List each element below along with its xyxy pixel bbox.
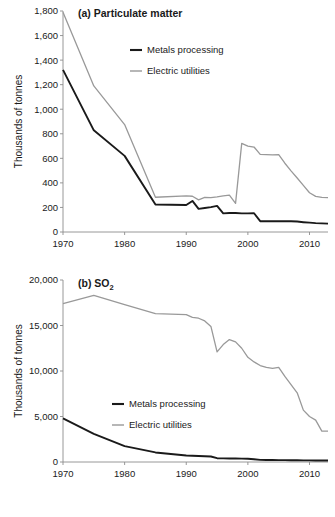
y-tick-label-a-2: 400 (42, 177, 58, 188)
chart-a-svg: 02004006008001,0001,2001,4001,6001,80019… (0, 0, 335, 258)
legend-label-a-metals-processing: Metals processing (147, 44, 224, 55)
x-tick-label-a-3: 2000 (237, 238, 258, 249)
y-tick-label-a-7: 1,400 (34, 55, 58, 66)
emissions-figure: 02004006008001,0001,2001,4001,6001,80019… (0, 0, 335, 517)
legend-label-b-metals-processing: Metals processing (129, 398, 206, 409)
y-tick-label-a-5: 1,000 (34, 104, 58, 115)
panel-title-a: (a) Particulate matter (78, 7, 182, 19)
series-line-a-electric-utilities (63, 12, 328, 203)
series-line-b-electric-utilities (63, 295, 328, 431)
y-tick-label-a-4: 800 (42, 128, 58, 139)
y-tick-label-b-2: 10,000 (29, 365, 58, 376)
series-line-b-metals-processing (63, 418, 328, 460)
y-tick-label-a-9: 1,800 (34, 5, 58, 16)
panel-b-so2: 05,00010,00015,00020,0001970198019902000… (0, 258, 335, 517)
x-tick-label-a-0: 1970 (52, 238, 73, 249)
x-tick-label-a-1: 1980 (114, 238, 135, 249)
series-line-a-metals-processing (63, 70, 328, 224)
y-tick-label-a-3: 600 (42, 153, 58, 164)
x-tick-label-a-4: 2010 (299, 238, 320, 249)
x-tick-label-b-4: 2010 (299, 468, 320, 479)
y-tick-label-b-3: 15,000 (29, 320, 58, 331)
x-tick-label-b-3: 2000 (237, 468, 258, 479)
chart-b-svg: 05,00010,00015,00020,0001970198019902000… (0, 258, 335, 517)
y-tick-label-a-0: 0 (53, 226, 58, 237)
y-tick-label-a-6: 1,200 (34, 79, 58, 90)
panel-title-b: (b) SO2 (78, 277, 114, 292)
x-tick-label-b-1: 1980 (114, 468, 135, 479)
panel-a-particulate-matter: 02004006008001,0001,2001,4001,6001,80019… (0, 0, 335, 258)
x-tick-label-b-0: 1970 (52, 468, 73, 479)
y-tick-label-b-0: 0 (53, 456, 58, 467)
y-tick-label-b-4: 20,000 (29, 274, 58, 285)
x-tick-label-a-2: 1990 (176, 238, 197, 249)
x-tick-label-b-2: 1990 (176, 468, 197, 479)
y-tick-label-a-1: 200 (42, 202, 58, 213)
y-tick-label-b-1: 5,000 (34, 411, 58, 422)
y-axis-label-b: Thousands of tonnes (13, 324, 24, 417)
legend-label-a-electric-utilities: Electric utilities (147, 65, 210, 76)
y-tick-label-a-8: 1,600 (34, 30, 58, 41)
legend-label-b-electric-utilities: Electric utilities (129, 419, 192, 430)
y-axis-label-a: Thousands of tonnes (13, 75, 24, 168)
